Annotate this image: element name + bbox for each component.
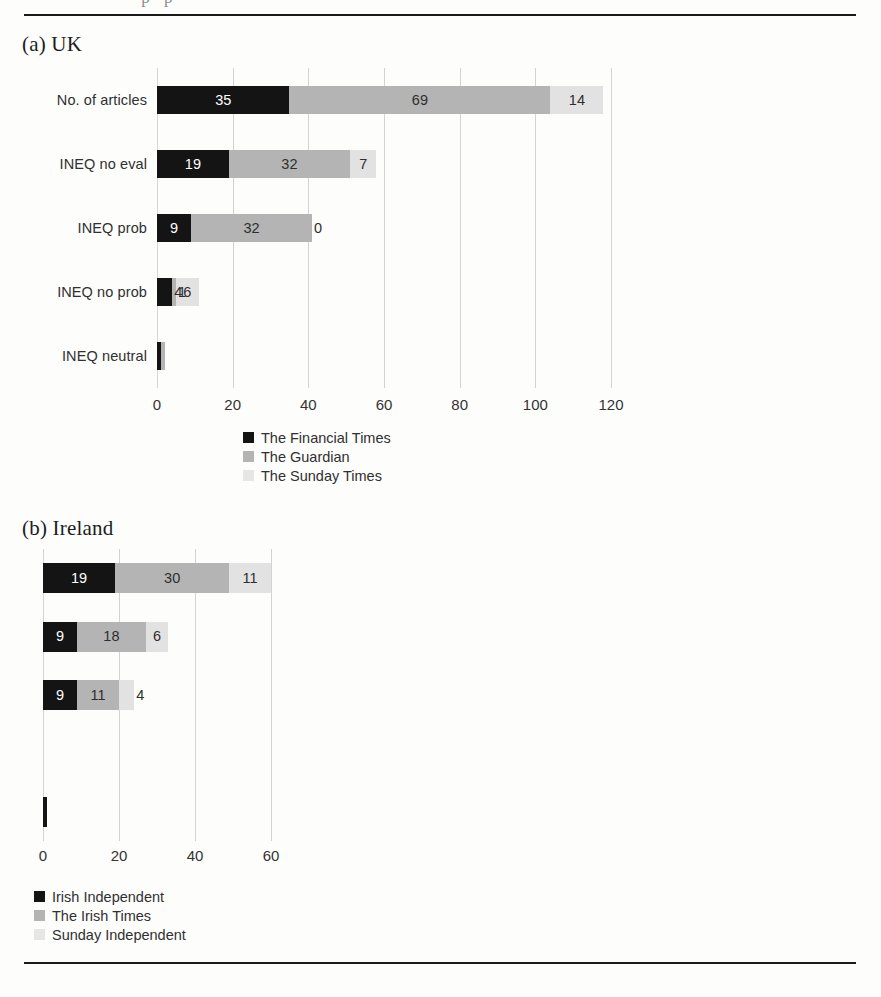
bar-value-label: 9 (56, 629, 64, 644)
bar-segment: 4 (119, 680, 134, 710)
bar-value-label: 18 (103, 629, 119, 644)
bar-value-label: 7 (359, 157, 367, 172)
chart-uk: 356914193279320416 No. of articlesINEQ n… (0, 60, 700, 410)
bar-value-label: 19 (71, 571, 87, 586)
x-axis-tick-label: 120 (598, 396, 623, 413)
bar-row (157, 342, 165, 370)
bar-value-label: 0 (314, 221, 322, 236)
x-axis-tick-label: 100 (523, 396, 548, 413)
legend-label: The Sunday Times (261, 468, 382, 484)
x-axis-tick-label: 80 (451, 396, 468, 413)
bar-segment: 18 (77, 622, 145, 652)
legend-swatch (34, 929, 45, 940)
bar-value-label: 9 (170, 221, 178, 236)
bar-row (43, 797, 47, 827)
category-label: INEQ no prob (57, 284, 147, 300)
legend-swatch (243, 470, 254, 481)
bar-segment: 14 (550, 86, 603, 114)
legend-item[interactable]: Sunday Independent (34, 925, 186, 944)
legend-label: Irish Independent (52, 889, 164, 905)
legend-swatch (243, 451, 254, 462)
chart-uk-category-labels: No. of articlesINEQ no evalINEQ probINEQ… (0, 68, 147, 388)
bar-segment: 32 (229, 150, 350, 178)
bar-segment: 9 (157, 214, 191, 242)
bar-row: 356914 (157, 86, 603, 114)
legend-label: Sunday Independent (52, 927, 186, 943)
cut-off-header-text: ··· p · p ·· (0, 0, 881, 8)
panel-b-title: (b) Ireland (22, 516, 113, 541)
bar-row: 9186 (43, 622, 168, 652)
bar-value-label: 11 (91, 688, 106, 703)
bar-segment (161, 342, 165, 370)
bar-segment: 11 (229, 563, 271, 593)
legend-item[interactable]: The Financial Times (243, 428, 391, 447)
legend-swatch (34, 910, 45, 921)
chart-uk-x-axis-ticks: 020406080100120 (157, 396, 611, 418)
chart-ireland-legend: Irish IndependentThe Irish TimesSunday I… (34, 887, 186, 944)
legend-label: The Irish Times (52, 908, 151, 924)
gridline (271, 549, 272, 841)
top-horizontal-rule (24, 14, 856, 16)
bar-segment: 32 (191, 214, 312, 242)
category-label: INEQ prob (78, 220, 147, 236)
x-axis-tick-label: 60 (376, 396, 393, 413)
category-label: INEQ neutral (62, 348, 147, 364)
chart-ireland: 19301191869114 0204060 (0, 545, 700, 855)
gridline (460, 68, 461, 388)
legend-swatch (34, 891, 45, 902)
legend-item[interactable]: The Sunday Times (243, 466, 391, 485)
x-axis-tick-label: 60 (263, 847, 280, 864)
bar-value-label: 6 (153, 629, 161, 644)
bar-segment: 9 (43, 622, 77, 652)
legend-swatch (243, 432, 254, 443)
bar-value-label: 9 (56, 688, 64, 703)
legend-label: The Financial Times (261, 430, 391, 446)
legend-item[interactable]: The Guardian (243, 447, 391, 466)
bar-value-label: 4 (136, 688, 144, 703)
gridline (535, 68, 536, 388)
bar-row: 19327 (157, 150, 376, 178)
x-axis-tick-label: 20 (224, 396, 241, 413)
bar-segment: 11 (77, 680, 119, 710)
chart-uk-plot-area: 356914193279320416 (157, 68, 611, 388)
bar-value-label: 30 (164, 571, 180, 586)
bar-segment: 69 (289, 86, 550, 114)
bar-row: 9320 (157, 214, 312, 242)
chart-ireland-category-labels (0, 549, 36, 841)
gridline (611, 68, 612, 388)
chart-ireland-plot-area: 19301191869114 (43, 549, 271, 841)
bar-segment: 6 (146, 622, 169, 652)
legend-item[interactable]: Irish Independent (34, 887, 186, 906)
bar-segment (43, 797, 47, 827)
bar-row: 193011 (43, 563, 271, 593)
x-axis-tick-label: 20 (111, 847, 128, 864)
bar-row: 9114 (43, 680, 134, 710)
bar-segment: 30 (115, 563, 229, 593)
x-axis-tick-label: 0 (39, 847, 47, 864)
legend-item[interactable]: The Irish Times (34, 906, 186, 925)
bar-value-label: 32 (244, 221, 260, 236)
bottom-horizontal-rule (24, 962, 856, 964)
bar-segment: 4 (157, 278, 172, 306)
chart-uk-legend: The Financial TimesThe GuardianThe Sunda… (243, 428, 391, 485)
bar-value-label: 11 (243, 571, 258, 586)
bar-value-label: 69 (412, 93, 428, 108)
bar-row: 416 (157, 278, 199, 306)
panel-a-title: (a) UK (22, 32, 82, 57)
legend-label: The Guardian (261, 449, 350, 465)
gridline (384, 68, 385, 388)
x-axis-tick-label: 0 (153, 396, 161, 413)
category-label: No. of articles (57, 92, 147, 108)
bar-value-label: 14 (569, 93, 585, 108)
bar-value-label: 6 (183, 285, 191, 300)
bar-segment: 19 (157, 150, 229, 178)
chart-ireland-x-axis-ticks: 0204060 (43, 847, 271, 869)
bar-value-label: 32 (281, 157, 297, 172)
bar-segment: 19 (43, 563, 115, 593)
bar-segment: 35 (157, 86, 289, 114)
bar-value-label: 35 (215, 93, 231, 108)
category-label: INEQ no eval (60, 156, 147, 172)
x-axis-tick-label: 40 (187, 847, 204, 864)
bar-value-label: 19 (185, 157, 201, 172)
figure-page: ··· p · p ·· (a) UK 356914193279320416 N… (0, 0, 881, 997)
